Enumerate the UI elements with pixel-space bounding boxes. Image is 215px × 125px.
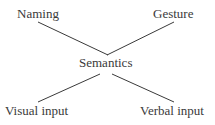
node-verbal-input: Verbal input bbox=[140, 104, 204, 118]
node-visual-input: Visual input bbox=[5, 104, 68, 118]
node-naming: Naming bbox=[17, 7, 59, 21]
edge-naming-semantics bbox=[38, 22, 108, 55]
edge-visual-semantics bbox=[38, 74, 100, 102]
node-gesture: Gesture bbox=[153, 7, 193, 21]
semantics-diagram: Naming Gesture Semantics Visual input Ve… bbox=[0, 0, 215, 125]
node-semantics-center: Semantics bbox=[79, 56, 132, 70]
edge-gesture-semantics bbox=[107, 22, 174, 55]
edge-verbal-semantics bbox=[112, 74, 174, 102]
